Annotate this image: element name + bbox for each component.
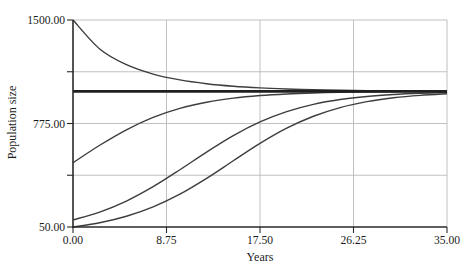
x-tick-label: 0.00 bbox=[63, 234, 83, 247]
y-tick-label: 1500.00 bbox=[27, 14, 65, 27]
x-tick-label: 8.75 bbox=[156, 234, 176, 247]
y-tick-label: 50.00 bbox=[39, 221, 65, 234]
y-tick-label: 775.00 bbox=[33, 118, 65, 131]
population-growth-chart: 50.00775.001500.000.008.7517.5026.2535.0… bbox=[0, 0, 474, 276]
x-axis-title: Years bbox=[73, 250, 447, 265]
x-tick-label: 35.00 bbox=[434, 234, 460, 247]
x-tick-label: 17.50 bbox=[247, 234, 273, 247]
chart-canvas: 50.00775.001500.000.008.7517.5026.2535.0… bbox=[0, 0, 474, 276]
x-tick-label: 26.25 bbox=[340, 234, 366, 247]
y-axis-title: Population size bbox=[5, 58, 20, 188]
